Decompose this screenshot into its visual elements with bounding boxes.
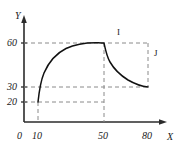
chart-figure: 60 30 20 0 10 50 80 Y X I J [0,0,182,156]
x-tick-label-0: 0 [17,131,22,141]
y-tick-label-30: 30 [7,82,17,92]
x-axis-title: X [167,132,173,142]
y-axis-arrow-icon [21,15,27,23]
x-tick-label-10: 10 [32,131,42,141]
y-tick-label-60: 60 [7,38,17,48]
y-tick-label-20: 20 [7,97,17,107]
x-tick-label-50: 50 [98,131,108,141]
data-curve [38,43,148,102]
annotation-label-j: J [154,49,158,58]
y-axis-title: Y [15,11,21,21]
x-axis-arrow-icon [159,119,167,125]
x-tick-label-80: 80 [142,131,152,141]
annotation-label-i: I [117,28,120,37]
chart-plot-area [0,0,182,156]
